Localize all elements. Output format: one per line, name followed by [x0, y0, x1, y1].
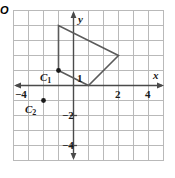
point-label-c2: C2 — [25, 104, 36, 115]
y-tick-label--2: −2 — [62, 110, 74, 121]
point-c2-marker — [41, 98, 46, 103]
x-tick-label-2: 2 — [115, 89, 121, 100]
y-tick-label--4: −4 — [62, 140, 74, 151]
point-label-c1-subscript: 1 — [47, 76, 51, 85]
x-tick-label-4: 4 — [145, 89, 151, 100]
y-tick-label-1: 1 — [77, 73, 83, 84]
x-axis-label: x — [153, 70, 159, 81]
y-axis-label: y — [78, 14, 83, 25]
point-c1-marker — [56, 68, 61, 73]
point-label-c1: C1 — [40, 72, 51, 83]
point-label-c2-subscript: 2 — [32, 108, 36, 117]
x-tick-label--4: −4 — [15, 89, 27, 100]
coordinate-plane-figure: x y O −4 2 4 1 −2 −4 C1 C2 — [0, 0, 175, 178]
